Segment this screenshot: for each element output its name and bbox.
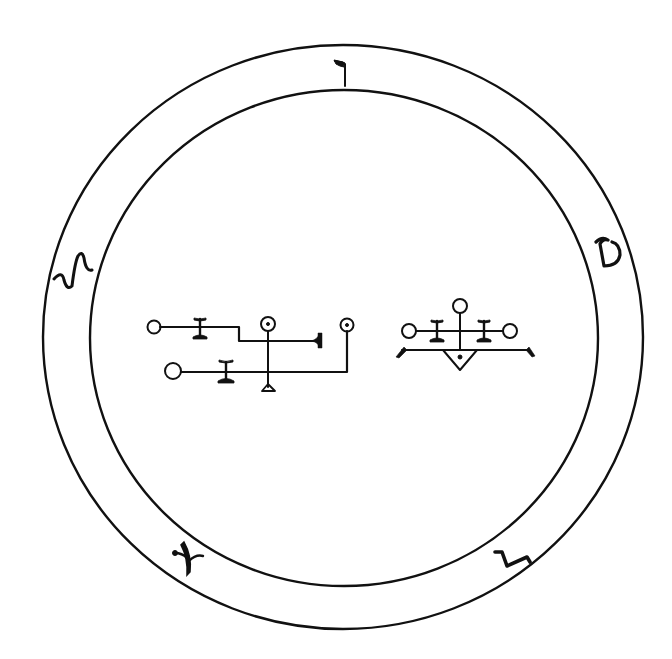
seal-figure	[0, 0, 672, 659]
right-sigil	[396, 299, 535, 370]
letter-bottom-left-alef	[173, 542, 204, 575]
inner-circle	[90, 90, 598, 586]
left-sigil	[148, 317, 354, 391]
letter-top-dalet	[334, 60, 345, 86]
letter-bottom-right-bet	[495, 552, 530, 566]
letter-left-shin	[54, 253, 92, 287]
outer-circle	[43, 45, 643, 629]
letter-right-tet	[596, 238, 620, 266]
